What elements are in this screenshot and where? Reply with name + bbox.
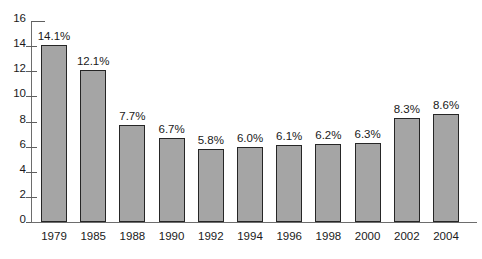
bar-group[interactable]: 7.7%	[119, 21, 145, 222]
bar-value-label: 5.8%	[198, 134, 224, 146]
y-axis-tick-label: 12	[13, 63, 26, 75]
y-axis-tick-label: 4	[20, 164, 26, 176]
x-axis-tick-label: 1992	[189, 230, 233, 242]
bar-value-label: 6.7%	[158, 123, 184, 135]
y-axis-tick-label: 14	[13, 38, 26, 50]
bar-group[interactable]: 6.1%	[276, 21, 302, 222]
bar[interactable]	[394, 118, 420, 222]
bar[interactable]	[315, 144, 341, 222]
x-axis-tick-label: 1990	[150, 230, 194, 242]
x-axis-tick-label: 1996	[267, 230, 311, 242]
bar[interactable]	[119, 125, 145, 222]
bar-value-label: 6.2%	[315, 129, 341, 141]
y-axis-tick-label: 10	[13, 88, 26, 100]
bar[interactable]	[433, 114, 459, 222]
bar[interactable]	[159, 138, 185, 222]
bar-value-label: 12.1%	[77, 55, 110, 67]
x-axis-tick-label: 1994	[228, 230, 272, 242]
bar-group[interactable]: 5.8%	[198, 21, 224, 222]
y-axis-tick-label: 2	[20, 189, 26, 201]
x-axis-tick-label: 2000	[346, 230, 390, 242]
x-axis-tick-label: 1985	[71, 230, 115, 242]
bar[interactable]	[355, 143, 381, 222]
x-axis-tick-label: 1979	[32, 230, 76, 242]
plot-area: 14.1%12.1%7.7%6.7%5.8%6.0%6.1%6.2%6.3%8.…	[31, 21, 482, 222]
bar-chart-figure: 1614121086420 14.1%12.1%7.7%6.7%5.8%6.0%…	[0, 0, 482, 259]
bar-group[interactable]: 12.1%	[80, 21, 106, 222]
bar[interactable]	[198, 149, 224, 222]
bar-value-label: 8.3%	[394, 103, 420, 115]
bar[interactable]	[41, 45, 67, 222]
x-axis-tick-label: 2004	[424, 230, 468, 242]
y-axis-tick-label: 8	[20, 114, 26, 126]
bar-value-label: 14.1%	[38, 30, 71, 42]
bar-group[interactable]: 8.3%	[394, 21, 420, 222]
bar[interactable]	[276, 145, 302, 222]
bar-group[interactable]: 6.0%	[237, 21, 263, 222]
y-axis-tick-label: 0	[20, 214, 26, 226]
bar-group[interactable]: 6.7%	[159, 21, 185, 222]
x-axis-tick-label: 1988	[110, 230, 154, 242]
bar[interactable]	[80, 70, 106, 222]
bar[interactable]	[237, 147, 263, 222]
x-axis-tick-label: 1998	[306, 230, 350, 242]
bar-value-label: 6.3%	[354, 128, 380, 140]
bar-value-label: 6.0%	[237, 132, 263, 144]
x-axis-baseline	[31, 222, 477, 223]
y-axis-tick-label: 16	[13, 13, 26, 25]
bar-value-label: 6.1%	[276, 130, 302, 142]
bar-value-label: 8.6%	[433, 99, 459, 111]
x-axis-tick-label: 2002	[385, 230, 429, 242]
bar-group[interactable]: 8.6%	[433, 21, 459, 222]
bar-group[interactable]: 14.1%	[41, 21, 67, 222]
bar-value-label: 7.7%	[119, 110, 145, 122]
bar-group[interactable]: 6.3%	[355, 21, 381, 222]
bar-group[interactable]: 6.2%	[315, 21, 341, 222]
y-axis-tick-label: 6	[20, 139, 26, 151]
